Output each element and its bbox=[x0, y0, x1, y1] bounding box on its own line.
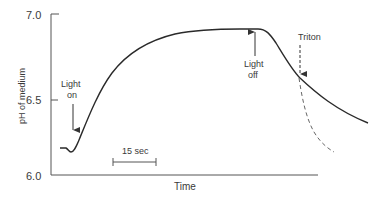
y-tick-label-top: 7.0 bbox=[26, 9, 41, 21]
light-off-label-line1: Light bbox=[244, 59, 264, 69]
light-on-label-line1: Light bbox=[61, 79, 81, 89]
y-tick-label-bottom: 6.0 bbox=[26, 170, 41, 182]
light-off-label-line2: off bbox=[248, 70, 258, 80]
time-scale-bar bbox=[113, 158, 156, 166]
y-axis-label: pH of medium bbox=[17, 68, 27, 124]
light-on-label-line2: on bbox=[67, 90, 77, 100]
ph-trace-line bbox=[60, 29, 368, 152]
scale-bar-label: 15 sec bbox=[122, 146, 149, 156]
triton-dashed-line bbox=[299, 78, 334, 152]
chart-canvas: 7.0 6.5 6.0 pH of medium Time Light on L… bbox=[0, 0, 387, 197]
x-axis-label: Time bbox=[174, 181, 196, 192]
y-tick-label-mid: 6.5 bbox=[26, 94, 41, 106]
triton-label: Triton bbox=[298, 32, 321, 42]
y-axis bbox=[51, 14, 59, 175]
